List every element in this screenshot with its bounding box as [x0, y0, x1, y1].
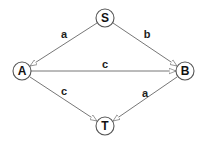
graph-diagram: a b c c a S A B T	[0, 0, 205, 144]
edge-label-s-a: a	[61, 28, 68, 40]
node-label-a: A	[18, 64, 27, 78]
node-label-s: S	[101, 11, 109, 25]
node-t: T	[96, 117, 114, 135]
edge-a-to-t	[30, 77, 97, 121]
edge-label-a-t: c	[61, 85, 67, 97]
node-label-b: B	[181, 64, 190, 78]
node-s: S	[96, 9, 114, 27]
edge-label-a-b: c	[102, 58, 108, 70]
node-b: B	[176, 62, 194, 80]
edge-b-to-t	[113, 77, 177, 121]
edge-label-s-b: b	[144, 28, 151, 40]
edge-label-b-t: a	[142, 87, 149, 99]
node-a: A	[13, 62, 31, 80]
node-label-t: T	[101, 119, 109, 133]
edges	[30, 23, 177, 121]
